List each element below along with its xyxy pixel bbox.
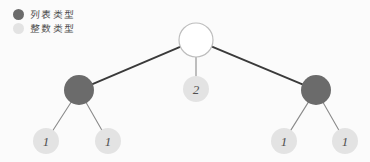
leaf-node-2-label: 1 [105, 134, 112, 149]
left-list-node[interactable] [64, 75, 94, 105]
middle-int-node-label: 2 [193, 82, 200, 97]
leaf-node-1[interactable]: 1 [33, 128, 59, 154]
edge-left-to-leaf-2 [86, 102, 102, 130]
legend: 列表类型 整数类型 [13, 8, 76, 34]
legend-item-list-type: 列表类型 [13, 8, 76, 20]
edge-right-to-leaf-3 [290, 102, 308, 131]
edge-left-to-leaf-1 [53, 102, 72, 131]
root-node[interactable] [179, 23, 213, 57]
right-list-node[interactable] [301, 75, 331, 105]
legend-label-integer-type: 整数类型 [30, 23, 76, 34]
edge-root-to-left [92, 46, 181, 84]
root-node-circle [179, 23, 213, 57]
edge-root-to-right [211, 46, 303, 84]
leaf-node-3-label: 1 [281, 134, 288, 149]
edge-right-to-leaf-4 [323, 102, 339, 130]
leaf-node-4-label: 1 [342, 134, 349, 149]
list-type-swatch [13, 9, 24, 20]
integer-type-swatch [13, 23, 24, 34]
left-list-node-circle [64, 75, 94, 105]
leaf-node-3[interactable]: 1 [271, 128, 297, 154]
middle-int-node[interactable]: 2 [183, 76, 209, 102]
leaf-node-2[interactable]: 1 [95, 128, 121, 154]
leaf-node-1-label: 1 [43, 134, 50, 149]
legend-item-integer-type: 整数类型 [13, 22, 76, 34]
leaf-node-4[interactable]: 1 [332, 128, 358, 154]
node-layer: 21111 [33, 23, 358, 154]
right-list-node-circle [301, 75, 331, 105]
tree-diagram: 21111 列表类型 整数类型 [0, 0, 370, 162]
legend-label-list-type: 列表类型 [30, 9, 76, 20]
